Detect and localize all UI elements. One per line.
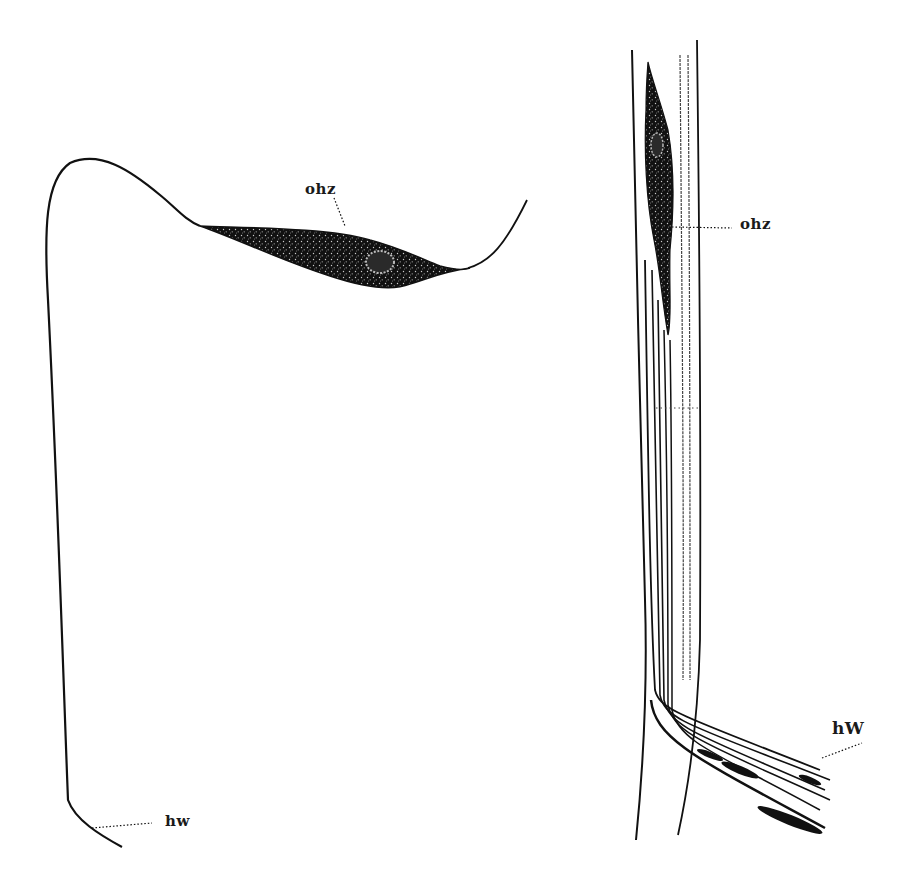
- right-fiber-label-hW: hW: [832, 718, 864, 738]
- right-panel-bundle: [632, 40, 862, 840]
- left-panel-cell: [46, 159, 527, 847]
- illustration-canvas: [0, 0, 907, 895]
- right-cell-label-ohz: ohz: [740, 215, 771, 233]
- left-hw-leader: [92, 823, 152, 828]
- left-fiber-path: [46, 159, 200, 847]
- left-cell-label-ohz: ohz: [305, 180, 336, 198]
- right-boundary-left: [632, 50, 646, 840]
- left-ohz-leader: [334, 198, 345, 226]
- left-cell-nucleus: [366, 251, 394, 273]
- right-cell-nucleus: [651, 133, 663, 157]
- left-cell-body: [200, 226, 470, 288]
- left-fiber-label-hw: hw: [165, 812, 190, 830]
- right-cell-body: [645, 62, 673, 335]
- left-distal-process: [468, 200, 527, 268]
- right-hw-leader: [822, 743, 862, 758]
